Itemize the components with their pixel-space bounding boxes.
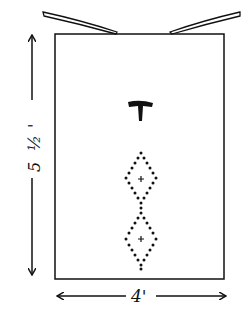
lower-diamond-motif: [125, 212, 158, 271]
width-dimension: 4': [58, 286, 225, 306]
lower-diamond-center-mark: [138, 236, 144, 242]
right-flap: [170, 12, 240, 34]
left-flap: [43, 12, 117, 34]
main-rectangle: [55, 34, 224, 279]
upper-diamond-center-mark: [138, 176, 144, 182]
height-label: 5 ½ ': [25, 124, 44, 172]
width-label: 4': [130, 286, 147, 306]
t-symbol: [128, 101, 153, 121]
height-dimension: 5 ½ ': [25, 36, 44, 274]
upper-diamond-motif: [125, 152, 158, 210]
diagram-canvas: 5 ½ ' 4': [0, 0, 251, 317]
